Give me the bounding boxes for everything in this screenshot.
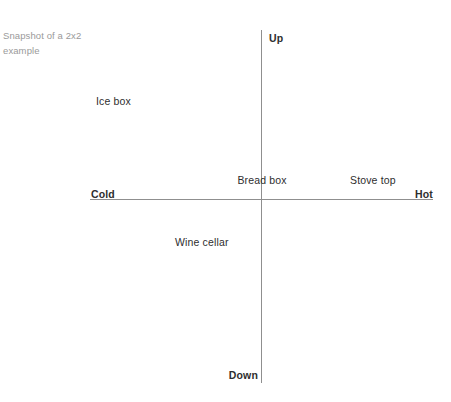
vertical-axis-line xyxy=(261,30,262,383)
data-point-label: Wine cellar xyxy=(175,236,229,248)
axis-pole-up: Up xyxy=(269,32,283,44)
quadrant-chart-canvas: Snapshot of a 2x2 example Up Down Cold H… xyxy=(0,0,451,402)
data-point-label: Ice box xyxy=(96,95,131,107)
data-point-label: Stove top xyxy=(350,174,396,186)
axis-pole-hot: Hot xyxy=(373,188,433,200)
data-point-label: Bread box xyxy=(237,174,286,186)
axis-pole-down: Down xyxy=(178,369,258,381)
axis-pole-cold: Cold xyxy=(91,188,115,200)
chart-caption: Snapshot of a 2x2 example xyxy=(3,28,108,58)
